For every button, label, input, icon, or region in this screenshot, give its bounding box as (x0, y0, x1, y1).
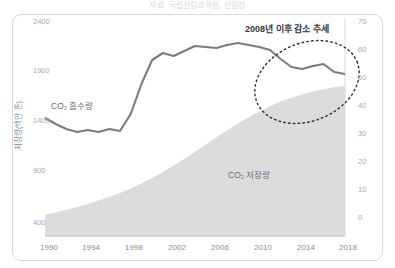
storage-label-text: CO₂ 저장량 (228, 170, 270, 180)
x-tick-2018: 2018 (339, 243, 357, 252)
plot-svg (0, 0, 395, 268)
storage-label: CO₂ 저장량 (228, 168, 270, 180)
y-right-tick-50: 50 (358, 74, 366, 82)
x-tick-1990: 1990 (40, 243, 58, 252)
plot-area (0, 0, 395, 268)
y-right-tick-10: 10 (358, 186, 366, 194)
y-left-tick-2400: 2400 (33, 18, 50, 26)
y-right-tick-30: 30 (358, 130, 366, 138)
decline-trend-annotation: 2008년 이후 감소 추세 (245, 22, 329, 35)
y-right-tick-0: 0 (358, 214, 362, 222)
absorption-label-text: CO₂ 흡수량 (51, 101, 93, 111)
y-left-tick-1400: 1400 (33, 117, 50, 125)
y-axis-title: 저장량(백만 톤) (12, 101, 23, 150)
chart-screenshot: 자료: 국립산림과학원, 산림청 2400 1900 1400 900 (0, 0, 395, 268)
y-right-tick-20: 20 (358, 158, 366, 166)
y-right-tick-70: 70 (358, 18, 366, 26)
x-tick-1998: 1998 (125, 243, 143, 252)
y-left-tick-400: 400 (33, 219, 46, 227)
y-right-tick-40: 40 (358, 102, 366, 110)
x-tick-2014: 2014 (297, 243, 315, 252)
y-right-tick-60: 60 (358, 46, 366, 54)
y-left-tick-900: 900 (33, 167, 46, 175)
x-tick-2002: 2002 (168, 243, 186, 252)
x-tick-2006: 2006 (211, 243, 229, 252)
x-tick-2010: 2010 (254, 243, 272, 252)
y-left-tick-1900: 1900 (33, 67, 50, 75)
absorption-label: CO₂ 흡수량 (51, 99, 93, 111)
x-tick-1994: 1994 (82, 243, 100, 252)
